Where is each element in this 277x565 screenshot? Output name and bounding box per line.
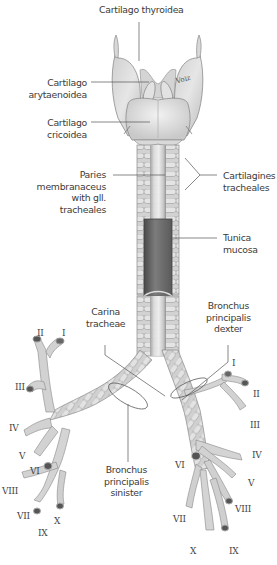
trachea bbox=[137, 145, 179, 356]
segment-right-III: III bbox=[250, 420, 260, 430]
segment-left-X: X bbox=[54, 516, 60, 526]
label-line: Bronchus bbox=[104, 464, 149, 476]
segment-right-IV: IV bbox=[252, 450, 261, 460]
label-cartilagines-tracheales: Cartilagines tracheales bbox=[223, 170, 275, 193]
segment-right-VI: VI bbox=[175, 460, 184, 470]
segment-right-IX: IX bbox=[229, 546, 238, 556]
label-cartilago-cricoidea: Cartilago cricoidea bbox=[47, 117, 87, 140]
label-line: Bronchus bbox=[206, 300, 251, 312]
label-line: tracheales bbox=[223, 182, 275, 194]
label-line: Tunica bbox=[223, 232, 258, 244]
larynx: Voiz bbox=[112, 35, 203, 146]
label-line: Cartilago thyroidea bbox=[99, 4, 184, 16]
segment-left-VIII: VIII bbox=[2, 486, 18, 496]
label-carina-tracheae: Carina tracheae bbox=[86, 306, 125, 329]
segment-left-VI: VI bbox=[30, 466, 39, 476]
label-cartilago-thyroidea: Cartilago thyroidea bbox=[99, 4, 184, 16]
label-line: sinister bbox=[104, 487, 149, 499]
label-line: cricoidea bbox=[47, 129, 87, 141]
label-line: principalis bbox=[206, 312, 251, 324]
label-line: tracheales bbox=[37, 204, 106, 216]
label-line: Carina bbox=[86, 306, 125, 318]
label-line: with gll. bbox=[37, 192, 106, 204]
label-line: Cartilagines bbox=[223, 170, 275, 182]
segment-left-II: II bbox=[37, 328, 44, 338]
label-line: membranaceus bbox=[37, 181, 106, 193]
label-line: Cartilago bbox=[28, 77, 87, 89]
segment-left-VII: VII bbox=[17, 511, 30, 521]
segment-right-I: I bbox=[232, 358, 235, 368]
segment-right-V: V bbox=[248, 478, 254, 488]
label-line: Paries bbox=[37, 169, 106, 181]
label-bronchus-principalis-sinister: Bronchus principalis sinister bbox=[104, 464, 149, 499]
label-bronchus-principalis-dexter: Bronchus principalis dexter bbox=[206, 300, 251, 335]
segment-left-IX: IX bbox=[38, 528, 47, 538]
segment-left-III: III bbox=[15, 382, 25, 392]
segment-left-I: I bbox=[62, 328, 65, 338]
label-paries-membranaceus: Paries membranaceus with gll. tracheales bbox=[37, 169, 106, 215]
segment-right-II: II bbox=[253, 389, 260, 399]
segment-left-V: V bbox=[19, 451, 25, 461]
label-line: principalis bbox=[104, 476, 149, 488]
label-line: arytaenoidea bbox=[28, 89, 87, 101]
label-tunica-mucosa: Tunica mucosa bbox=[223, 232, 258, 255]
label-cartilago-arytaenoidea: Cartilago arytaenoidea bbox=[28, 77, 87, 100]
segment-right-VIII: VIII bbox=[235, 504, 251, 514]
segment-right-X: X bbox=[190, 546, 196, 556]
segment-right-VII: VII bbox=[173, 514, 186, 524]
label-line: mucosa bbox=[223, 244, 258, 256]
label-line: tracheae bbox=[86, 318, 125, 330]
segment-left-IV: IV bbox=[9, 423, 18, 433]
label-line: Cartilago bbox=[47, 117, 87, 129]
label-line: dexter bbox=[206, 323, 251, 335]
